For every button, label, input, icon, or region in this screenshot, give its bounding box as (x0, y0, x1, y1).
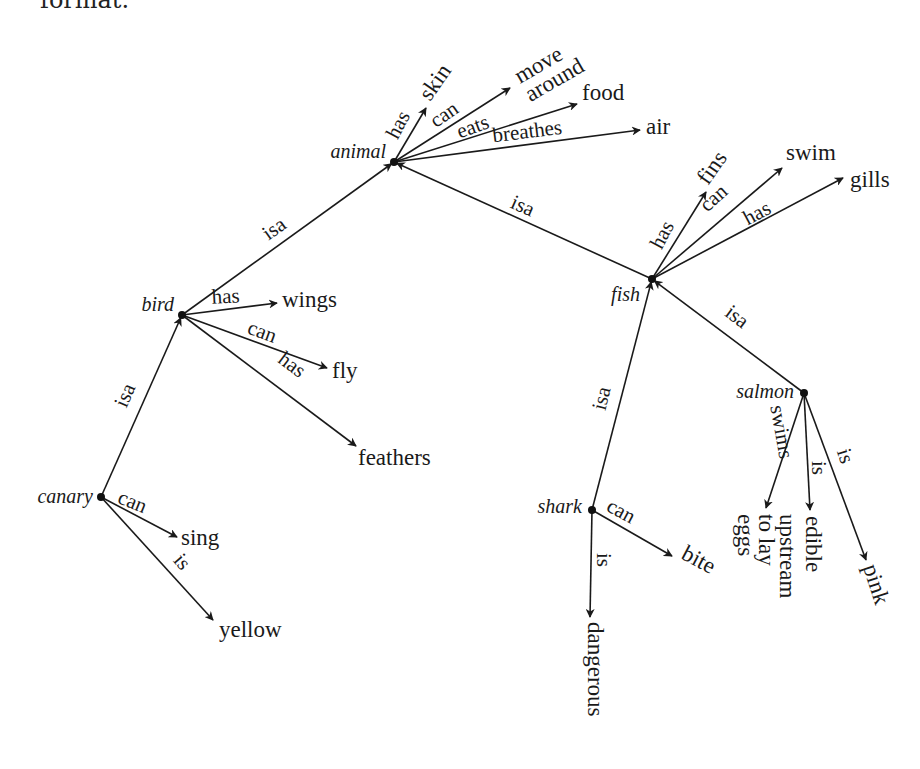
relation-label: is (169, 548, 196, 574)
target-label: dangerous (583, 622, 608, 717)
property-salmon-is-edible: isedible (801, 393, 831, 572)
isa-edge-fish-animal: isa (397, 163, 652, 279)
node-label: salmon (736, 380, 794, 402)
target-label: pink (858, 561, 895, 608)
target-label: bite (678, 540, 720, 578)
target-label: movearound (510, 34, 589, 106)
isa-edge-canary-bird: isa (101, 318, 181, 497)
arrow-line (590, 510, 592, 617)
target-label: air (646, 114, 671, 139)
arrow-line (654, 281, 804, 393)
property-canary-is-yellow: isyellow (101, 497, 282, 642)
node-dot-icon (97, 493, 105, 501)
property-shark-is-dangerous: isdangerous (583, 510, 616, 717)
arrow-line (652, 178, 843, 279)
target-label: food (582, 80, 625, 105)
edge-label: isa (507, 190, 539, 222)
edge-label: isa (109, 379, 141, 411)
relation-label: can (115, 485, 151, 518)
edge-label: isa (721, 300, 755, 334)
node-dot-icon (588, 506, 596, 514)
relation-label: can (245, 315, 281, 348)
node-dot-icon (800, 389, 808, 397)
property-edges: hasskincanmovearoundeatsfoodbreathesairh… (101, 34, 895, 716)
property-salmon-swims-upstream-to-lay-eggs: swimsupstreamto layeggs (733, 393, 804, 598)
target-label: gills (850, 167, 890, 192)
node-salmon: salmon (736, 380, 808, 402)
property-bird-has-feathers: hasfeathers (182, 315, 431, 470)
isa-edges: isaisaisaisaisa (101, 163, 804, 510)
isa-edge-salmon-fish: isa (654, 281, 804, 393)
arrow-line (101, 318, 181, 497)
edge-label: isa (587, 383, 616, 412)
target-label: fly (332, 358, 358, 383)
arrow-line (397, 163, 652, 279)
relation-label: has (381, 107, 415, 143)
relation-label: has (211, 283, 240, 308)
node-label: fish (611, 283, 640, 306)
semantic-network-diagram: isaisaisaisaisa hasskincanmovearoundeats… (0, 0, 920, 769)
target-label: wings (282, 287, 337, 312)
arrow-line (804, 393, 810, 510)
relation-label: is (832, 445, 859, 466)
node-shark: shark (538, 495, 596, 517)
node-label: bird (141, 293, 175, 315)
relation-label: has (274, 346, 311, 382)
relation-label: is (807, 461, 831, 475)
relation-label: is (592, 553, 616, 567)
node-animal: animal (330, 140, 398, 166)
target-label: yellow (219, 617, 282, 642)
target-label: feathers (358, 445, 431, 470)
node-label: canary (37, 485, 93, 508)
node-canary: canary (37, 485, 105, 508)
target-label: edible (801, 516, 826, 572)
target-label: sing (181, 525, 220, 550)
node-label: animal (330, 140, 386, 162)
target-label: upstreamto layeggs (733, 514, 800, 598)
isa-edge-shark-fish: isa (587, 282, 652, 510)
relation-label: can (603, 493, 640, 528)
relation-label: swims (765, 403, 798, 460)
node-bird: bird (141, 293, 186, 319)
node-dot-icon (390, 158, 398, 166)
relation-label: has (645, 217, 679, 253)
node-label: shark (538, 495, 584, 517)
relation-label: can (694, 179, 732, 217)
node-dot-icon (178, 311, 186, 319)
property-salmon-is-pink: ispink (804, 393, 895, 608)
property-bird-can-fly: canfly (182, 315, 358, 383)
relation-label: breathes (491, 115, 563, 147)
target-label: swim (786, 140, 836, 165)
node-dot-icon (648, 275, 656, 283)
